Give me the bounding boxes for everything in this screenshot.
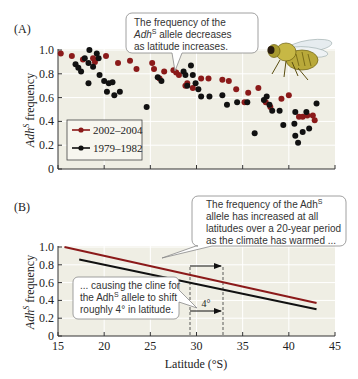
panel-b-x-axis-label: Latitude (°S) [165, 357, 227, 371]
shift-label: 4° [202, 298, 211, 309]
data-point [292, 133, 298, 139]
legend-label-2002-2004: 2002–2004 [93, 124, 143, 136]
data-point [291, 121, 297, 127]
panel-b-callout-bottom: ... causing the cline for the AdhS allel… [73, 277, 197, 319]
callout-a-line-1: The frequency of the [134, 17, 226, 28]
panel-a: (A) 00.20.40.60.81.0 AdhS frequency 2002… [14, 13, 335, 176]
callout-a-line-2: AdhS allele decreases [133, 28, 232, 40]
y-tick-label: 0.4 [39, 114, 54, 128]
data-point [144, 104, 150, 110]
data-point [190, 72, 196, 78]
x-tick-label: 30 [191, 339, 203, 353]
data-point [97, 72, 103, 78]
data-point [109, 79, 115, 85]
callout-b-bottom-line-1: ... causing the cline for [80, 280, 181, 291]
data-point [96, 55, 102, 61]
callout-b-bottom-line-2: the AdhS allele to shift [80, 291, 177, 303]
panel-a-legend: 2002–2004 1979–1982 [67, 120, 143, 160]
data-point [300, 129, 306, 135]
legend-label-1979-1982: 1979–1982 [93, 142, 143, 154]
data-point [58, 51, 64, 57]
data-point [161, 68, 167, 74]
x-tick-label: 40 [283, 339, 295, 353]
data-point [127, 58, 133, 64]
y-tick-label: 1.0 [39, 240, 54, 254]
data-point [278, 96, 284, 102]
callout-b-top-line-1: The frequency of the AdhS [206, 198, 323, 210]
data-point [219, 77, 225, 83]
data-point [233, 86, 239, 92]
panel-a-y-axis-label: AdhS frequency [22, 73, 37, 148]
y-tick-label: 0.2 [39, 311, 54, 325]
data-point [188, 62, 194, 68]
panel-b-label: (B) [14, 200, 30, 214]
data-point [151, 66, 157, 72]
data-point [277, 108, 283, 114]
callout-b-top-line-4: as the climate has warmed ... [206, 235, 336, 246]
y-tick-label: 0 [48, 329, 54, 343]
data-point [90, 64, 96, 70]
figure-canvas: (A) 00.20.40.60.81.0 AdhS frequency 2002… [0, 0, 358, 379]
data-point [206, 76, 212, 82]
y-tick-label: 0.6 [39, 91, 54, 105]
y-tick-label: 0.6 [39, 276, 54, 290]
y-tick-label: 0.4 [39, 293, 54, 307]
data-point [314, 101, 320, 107]
data-point [252, 130, 258, 136]
data-point [269, 108, 275, 114]
data-point [198, 76, 204, 82]
data-point [303, 109, 309, 115]
callout-b-bottom-line-3: roughly 4° in latitude. [80, 304, 174, 315]
y-tick-label: 0.8 [39, 67, 54, 81]
data-point [306, 126, 312, 132]
x-tick-label: 20 [98, 339, 110, 353]
panel-b: (B) 1520253035404500.20.40.60.81.0 AdhS … [14, 196, 346, 371]
data-point [69, 53, 75, 59]
data-point [245, 90, 251, 96]
data-point [286, 92, 292, 98]
y-tick-label: 0.8 [39, 258, 54, 272]
y-tick-label: 1.0 [39, 43, 54, 57]
data-point [244, 99, 250, 105]
data-point [226, 78, 232, 84]
data-point [82, 55, 88, 61]
data-point [193, 80, 199, 86]
data-point [295, 140, 301, 146]
data-point [280, 122, 286, 128]
y-tick-label: 0.2 [39, 138, 54, 152]
panel-b-y-axis-label: AdhS frequency [22, 255, 37, 330]
data-point [184, 83, 190, 89]
data-point [264, 93, 270, 99]
data-point [117, 89, 123, 95]
data-point [111, 92, 117, 98]
data-point [219, 92, 225, 98]
data-point [78, 68, 84, 74]
x-tick-label: 25 [144, 339, 156, 353]
data-point [133, 66, 139, 72]
callout-a-line-3: as latitude increases. [134, 41, 228, 52]
panel-a-label: (A) [14, 22, 31, 36]
data-point [266, 102, 272, 108]
data-point [255, 85, 261, 91]
data-point [312, 117, 318, 123]
data-point [206, 93, 212, 99]
x-tick-label: 45 [329, 339, 341, 353]
data-point [234, 99, 240, 105]
x-tick-label: 35 [237, 339, 249, 353]
data-point [224, 102, 230, 108]
data-point [104, 89, 110, 95]
data-point [86, 47, 92, 53]
data-point [182, 72, 188, 78]
y-tick-label: 0 [48, 162, 54, 176]
callout-b-top-line-3: latitudes over a 20-year period [206, 223, 341, 234]
data-point [158, 78, 164, 84]
data-point [195, 86, 201, 92]
data-point [115, 60, 121, 66]
data-point [198, 93, 204, 99]
data-point [149, 60, 155, 66]
data-point [292, 109, 298, 115]
data-point [85, 80, 91, 86]
callout-b-top-line-2: allele has increased at all [206, 211, 318, 222]
data-point [103, 53, 109, 59]
